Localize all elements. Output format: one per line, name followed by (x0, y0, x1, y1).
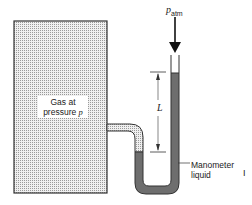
edge-mark: I (243, 168, 246, 178)
tank-label: Gas at pressure p (38, 96, 88, 118)
length-label: L (157, 103, 163, 113)
arrow-head-icon (169, 42, 181, 53)
manometer-label: Manometer liquid (191, 160, 234, 180)
patm-label: patm (166, 5, 183, 19)
connecting-pipe (107, 124, 143, 152)
